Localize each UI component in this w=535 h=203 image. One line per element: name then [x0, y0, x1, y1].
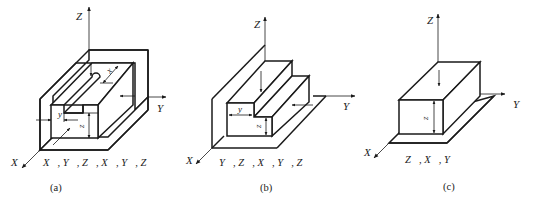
x-axis-label-c: X: [363, 146, 372, 158]
z-axis-label-b: Z: [254, 18, 261, 30]
x-axis-a: [22, 150, 40, 168]
dim-z-label-b: z: [253, 124, 263, 129]
x-axis-label-a: X: [10, 156, 19, 168]
caption-a: (a): [50, 182, 62, 194]
caption-c: (c): [443, 181, 455, 193]
dim-y-label-a: y: [57, 109, 62, 119]
z-axis-label-c: Z: [427, 14, 434, 26]
dim-z-label-a: z: [76, 124, 86, 129]
caption-b: (b): [260, 182, 273, 194]
panel-b: Z Y X y z Y⃗, Z⃗, X⃗, Y⃗, Z⃗ (b): [185, 17, 355, 194]
y-axis-label-b: Y: [343, 100, 351, 112]
constraints-text-b: Y⃗, Z⃗, X⃗, Y⃗, Z⃗: [219, 157, 311, 168]
machining-constraint-diagram: Z Y X x y z X⃗, Y⃗, Z⃗, X⃗, Y⃗, Z⃗ (a): [0, 0, 535, 203]
y-axis-label-a: Y: [157, 102, 165, 114]
z-axis-label-a: Z: [76, 10, 83, 22]
y-axis-label-c: Y: [513, 98, 521, 110]
x-axis-c: [374, 143, 389, 158]
panel-c: Z Y X z Z⃗, X⃗, Y⃗ (c): [363, 14, 521, 193]
dim-y-label-b: y: [237, 104, 242, 114]
x-axis-b: [196, 148, 212, 164]
dim-z-label-c: z: [420, 116, 430, 121]
constraints-text-c: Z⃗, X⃗, Y⃗: [405, 154, 458, 165]
x-axis-label-b: X: [185, 154, 194, 166]
constraints-text-a: X⃗, Y⃗, Z⃗, X⃗, Y⃗, Z⃗: [42, 157, 154, 168]
panel-a: Z Y X x y z X⃗, Y⃗, Z⃗, X⃗, Y⃗, Z⃗ (a): [10, 7, 166, 194]
